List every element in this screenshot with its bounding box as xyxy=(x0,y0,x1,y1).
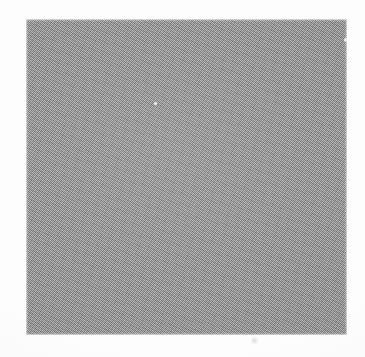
moire-screen-overlay xyxy=(26,19,347,335)
halftone-texture-overlay xyxy=(26,19,347,335)
gray-plate xyxy=(26,19,347,335)
plate-edge-softening xyxy=(26,19,347,335)
scanned-page xyxy=(0,0,365,357)
plate-vignette-overlay xyxy=(26,19,347,335)
faint-mark-below-plate-artifact xyxy=(252,338,257,343)
